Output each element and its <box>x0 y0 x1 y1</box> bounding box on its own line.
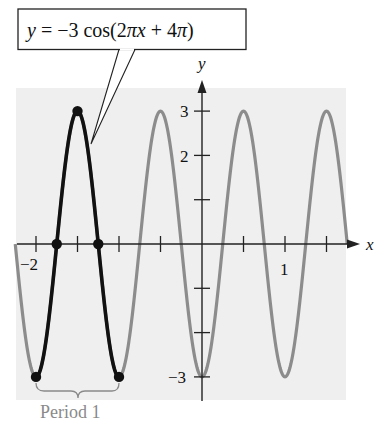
y-tick-label-neg3: −3 <box>168 368 186 387</box>
y-axis-label: y <box>196 54 206 73</box>
x-axis-label: x <box>365 235 374 254</box>
equation-x: x <box>136 19 146 41</box>
y-tick-label-3: 3 <box>180 102 189 121</box>
key-point <box>114 372 124 382</box>
x-tick-label-neg2: −2 <box>20 255 38 274</box>
equation-part: + 4 <box>146 19 177 41</box>
x-axis-arrow-icon <box>347 240 360 249</box>
equation-text: y = −3 cos(2πx + 4π) <box>25 19 194 42</box>
key-point <box>93 239 103 249</box>
y-axis-arrow-icon <box>198 80 207 93</box>
equation-part: = −3 cos(2 <box>36 19 127 42</box>
x-tick-label-1: 1 <box>280 260 289 279</box>
period-label: Period 1 <box>40 402 101 422</box>
key-point <box>31 372 41 382</box>
cosine-graph: −2 1 3 2 −3 x y Period 1 y = −3 cos(2πx … <box>0 0 384 435</box>
key-point <box>52 239 62 249</box>
equation-part: ) <box>187 19 194 42</box>
equation-y: y <box>25 19 36 42</box>
key-point <box>72 106 82 116</box>
y-tick-label-2: 2 <box>180 147 189 166</box>
